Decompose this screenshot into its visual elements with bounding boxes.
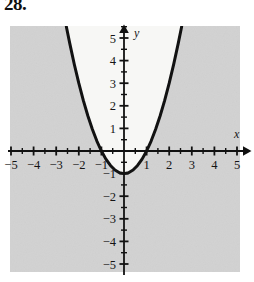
- x-axis-label: x: [233, 127, 240, 141]
- y-tick-label-1: 1: [110, 122, 116, 136]
- x-tick-label-3: 3: [189, 158, 195, 172]
- x-tick-label--3: −3: [50, 158, 63, 172]
- x-tick-label-5: 5: [234, 158, 240, 172]
- y-tick-label--3: −3: [103, 212, 116, 226]
- y-tick-label--5: −5: [103, 258, 116, 272]
- y-tick-label-2: 2: [110, 99, 116, 113]
- y-tick-label-3: 3: [110, 77, 116, 91]
- y-tick-label-5: 5: [110, 32, 116, 46]
- x-tick-label-4: 4: [211, 158, 218, 172]
- x-axis-arrowhead: [243, 146, 252, 156]
- graph-area: −5−4−3−2−11234554321−1−2−3−4−5 x y: [0, 0, 254, 282]
- y-axis-label: y: [133, 26, 140, 40]
- y-tick-label--2: −2: [103, 190, 116, 204]
- x-tick-label-2: 2: [166, 158, 172, 172]
- x-tick-label--2: −2: [72, 158, 85, 172]
- y-tick-label--4: −4: [103, 235, 117, 249]
- x-tick-label-1: 1: [143, 158, 149, 172]
- coordinate-plane-graph: −5−4−3−2−11234554321−1−2−3−4−5 x y: [0, 0, 254, 282]
- y-tick-label-4: 4: [110, 54, 117, 68]
- x-tick-label--5: −5: [4, 158, 17, 172]
- x-tick-label--4: −4: [27, 158, 41, 172]
- figure-container: 28.: [0, 0, 254, 282]
